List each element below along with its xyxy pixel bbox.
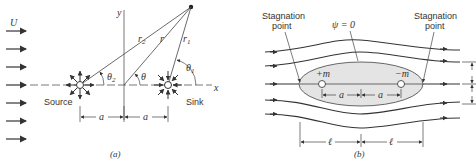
stagnation-left-line2: point xyxy=(272,21,292,31)
theta1-label: θ1 xyxy=(186,62,194,75)
stagnation-left-line1: Stagnation xyxy=(262,11,305,21)
r-line xyxy=(124,7,191,85)
dimension-a xyxy=(80,106,168,122)
stagnation-right-line1: Stagnation xyxy=(414,11,457,21)
panel-b: +m −m a a ℓ ℓ xyxy=(262,11,476,159)
y-axis-label: y xyxy=(116,7,122,18)
psi-label: ψ = 0 xyxy=(332,19,355,30)
rankine-oval-figure: U x y r2 r r1 θ2 θ θ1 xyxy=(0,0,476,166)
theta-label: θ xyxy=(141,71,146,82)
dimension-l xyxy=(300,122,423,147)
r1-label: r1 xyxy=(183,33,190,46)
source-point xyxy=(319,81,326,88)
source-strength-label: +m xyxy=(316,68,330,79)
dim-a-left-b: a xyxy=(339,89,344,100)
dim-l-left: ℓ xyxy=(328,136,332,147)
uniform-flow-arrows xyxy=(6,31,26,139)
stagnation-left-leader xyxy=(285,32,300,82)
dim-a-right: a xyxy=(143,111,148,122)
stagnation-right-line2: point xyxy=(425,21,445,31)
sink-point xyxy=(398,81,405,88)
x-axis-label: x xyxy=(213,82,219,93)
r2-label: r2 xyxy=(138,33,146,46)
psi-leader xyxy=(350,31,358,61)
sink-icon xyxy=(154,71,182,99)
dim-l-right: ℓ xyxy=(389,136,393,147)
sink-strength-label: −m xyxy=(395,68,409,79)
stagnation-right-leader xyxy=(423,32,434,82)
r-label: r xyxy=(160,33,164,44)
dim-a-right-b: a xyxy=(378,89,383,100)
theta-arc xyxy=(135,74,140,85)
theta2-arc xyxy=(100,72,104,85)
dimension-h xyxy=(462,62,476,104)
source-icon xyxy=(66,71,94,99)
sink-label: Sink xyxy=(186,97,204,107)
theta2-label: θ2 xyxy=(107,71,116,84)
caption-b: (b) xyxy=(354,149,365,159)
caption-a: (a) xyxy=(110,149,121,159)
dim-a-left: a xyxy=(99,111,104,122)
r2-line xyxy=(80,7,191,85)
r1-line xyxy=(168,7,191,85)
uniform-flow-label: U xyxy=(10,17,18,28)
panel-a: U x y r2 r r1 θ2 θ θ1 xyxy=(6,5,219,159)
source-label: Source xyxy=(44,97,73,107)
